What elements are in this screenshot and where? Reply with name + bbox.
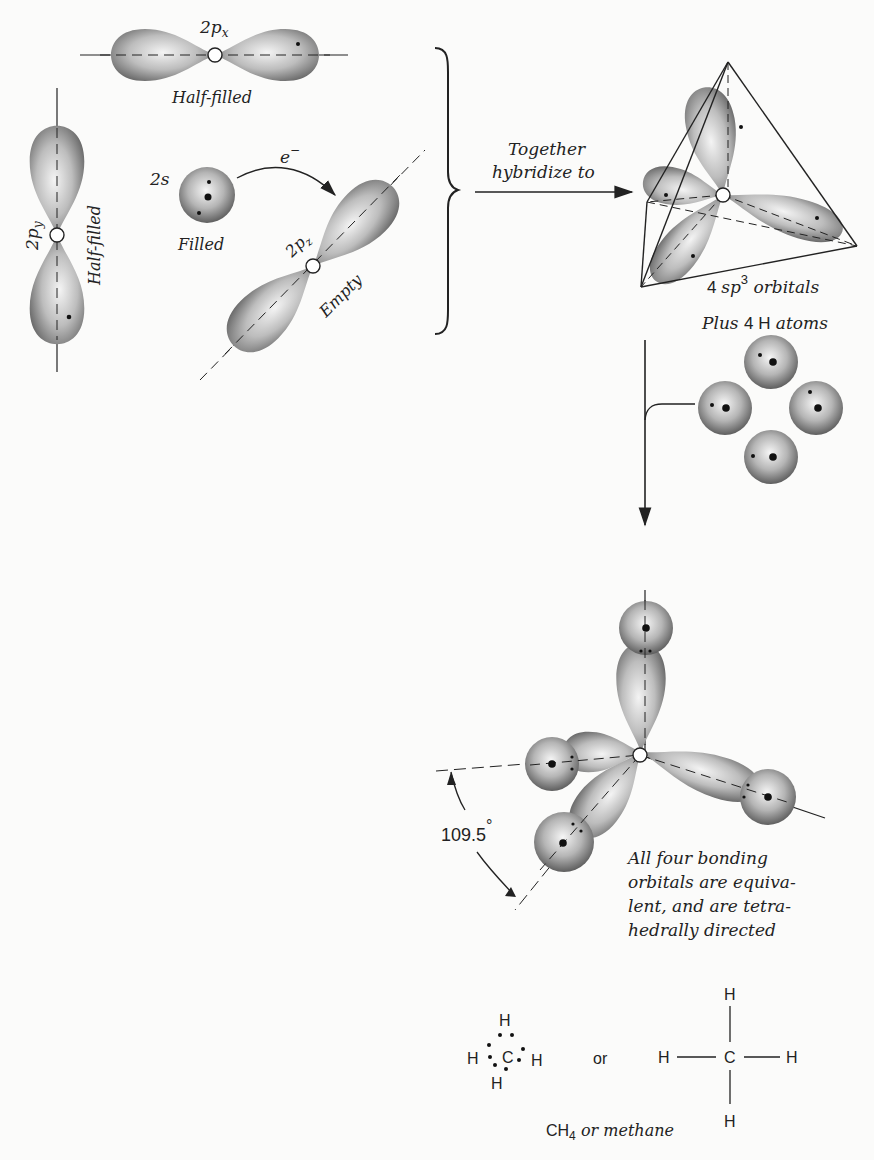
label-2py: 2py bbox=[22, 221, 45, 251]
lewis-h-top: H bbox=[499, 1012, 511, 1029]
label-ch4-methane: CH4 or methane bbox=[546, 1121, 674, 1143]
struct-c: C bbox=[724, 1049, 736, 1066]
sp3-tetrahedron: 4 sp3 orbitals Plus 4 H atoms bbox=[640, 62, 857, 333]
label-2s-state: Filled bbox=[177, 235, 224, 254]
structural-formula: H H C H H bbox=[658, 986, 798, 1130]
combine-arrow bbox=[645, 340, 695, 525]
lewis-structure: H H C H H bbox=[467, 1012, 543, 1092]
orbital-2s: 2s Filled bbox=[149, 167, 235, 254]
hydrogen-atoms bbox=[698, 335, 843, 484]
lewis-h-bottom: H bbox=[491, 1075, 503, 1092]
note-line-1: All four bonding bbox=[626, 848, 768, 868]
note-line-4: hedrally directed bbox=[628, 920, 776, 940]
struct-h-top: H bbox=[724, 986, 736, 1003]
label-sp3-orbitals: 4 sp3 orbitals bbox=[707, 272, 820, 297]
orbital-2py: 2py Half-filled bbox=[22, 88, 104, 372]
note-line-3: lent, and are tetra- bbox=[628, 896, 791, 916]
label-2pz-state: Empty bbox=[315, 270, 367, 322]
grouping-brace bbox=[435, 48, 458, 334]
struct-h-left: H bbox=[658, 1049, 670, 1066]
orbital-2px: 2px Half-filled bbox=[80, 17, 348, 107]
label-bond-angle: 109.5° bbox=[441, 817, 492, 845]
struct-h-bottom: H bbox=[724, 1113, 736, 1130]
methane-orbital-model: 109.5° All four bonding orbitals are equ… bbox=[436, 590, 825, 940]
label-electron: e− bbox=[280, 143, 300, 167]
label-2px-state: Half-filled bbox=[171, 88, 252, 107]
orbital-2pz: 2pz Empty bbox=[200, 150, 425, 380]
label-or: or bbox=[593, 1050, 608, 1067]
lewis-c: C bbox=[502, 1049, 514, 1066]
struct-h-right: H bbox=[786, 1049, 798, 1066]
label-2px: 2px bbox=[199, 17, 229, 40]
hybridization-diagram: 2px Half-filled 2py Half-filled 2s Fille… bbox=[0, 0, 874, 1160]
electron-transfer-arrow: e− bbox=[237, 143, 335, 195]
label-2pz: 2pz bbox=[281, 229, 316, 264]
label-2py-state: Half-filled bbox=[85, 205, 104, 286]
equivalence-note: All four bonding orbitals are equiva- le… bbox=[626, 848, 796, 940]
lewis-h-left: H bbox=[467, 1050, 479, 1067]
lewis-h-right: H bbox=[531, 1052, 543, 1069]
hybridize-arrow: Together hybridize to bbox=[475, 139, 632, 192]
label-plus-4h: Plus 4 H atoms bbox=[701, 313, 828, 333]
note-line-2: orbitals are equiva- bbox=[628, 872, 796, 892]
label-hybridize-to: hybridize to bbox=[492, 162, 595, 182]
label-together: Together bbox=[508, 139, 586, 159]
label-2s: 2s bbox=[149, 169, 170, 189]
